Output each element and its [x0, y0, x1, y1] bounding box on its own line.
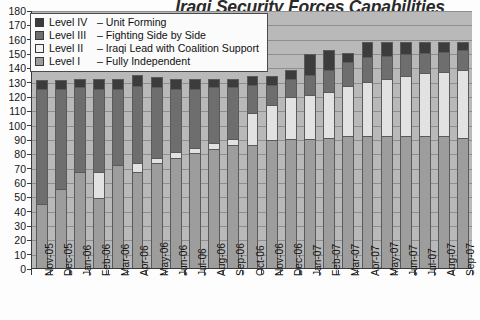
y-axis-tick-label: 10: [0, 250, 26, 260]
bar-segment-level-iv: [55, 80, 67, 89]
bar-segment-level-iv: [285, 70, 297, 79]
x-axis-tick-mark: [165, 270, 166, 275]
legend-label-level-2: Level II – Iraqi Lead with Coalition Sup…: [49, 43, 259, 54]
bar-segment-level-iii: [189, 89, 201, 148]
bar-segment-level-iii: [438, 52, 450, 72]
bar-segment-level-ii: [266, 105, 278, 141]
bar-segment-level-iv: [151, 77, 163, 87]
bar-segment-level-ii: [400, 76, 412, 136]
legend-swatch-level-1-icon: [35, 57, 44, 66]
y-axis-tick-label: 50: [0, 192, 26, 202]
bar-column: [381, 10, 393, 268]
legend-dash-1: –: [97, 55, 103, 67]
legend-desc-2: Iraqi Lead with Coalition Support: [106, 42, 259, 54]
bar-segment-level-iii: [227, 87, 239, 139]
chart-legend: Level IV– Unit Forming Level III– Fighti…: [30, 13, 268, 72]
legend-swatch-level-2-icon: [35, 44, 44, 53]
y-axis-tick-label: 160: [0, 35, 26, 45]
x-axis-tick-mark: [69, 270, 70, 275]
x-axis-tick-mark: [299, 270, 300, 275]
x-axis-tick-mark: [357, 270, 358, 275]
legend-desc-1: Fully Independent: [106, 55, 190, 67]
bar-segment-level-ii: [342, 86, 354, 136]
bar-column: [400, 10, 412, 268]
x-axis-tick-mark: [453, 270, 454, 275]
y-axis-tick-label: 80: [0, 149, 26, 159]
chart-screenshot: Iraqi Security Forces Capabilities 18017…: [0, 0, 480, 320]
bar-segment-level-iv: [323, 50, 335, 70]
bar-segment-level-iii: [112, 89, 124, 165]
bar-segment-level-ii: [208, 143, 220, 149]
bar-segment-level-iv: [36, 80, 48, 89]
bar-column: [438, 10, 450, 268]
bar-segment-level-iv: [189, 79, 201, 89]
x-axis-tick-mark: [127, 270, 128, 275]
x-axis-tick-mark: [434, 270, 435, 275]
bar-segment-level-ii: [419, 73, 431, 136]
bar-segment-level-ii: [132, 163, 144, 172]
bar-segment-level-iii: [266, 85, 278, 105]
bar-segment-level-iii: [93, 89, 105, 172]
y-axis-tick-label: 130: [0, 78, 26, 88]
legend-item-level-1: Level I – Fully Independent: [35, 55, 263, 68]
bar-segment-level-iii: [247, 85, 259, 114]
bar-segment-level-ii: [323, 92, 335, 138]
bar-segment-level-iv: [208, 79, 220, 88]
bar-segment-level-iv: [400, 42, 412, 55]
x-axis-tick-mark: [261, 270, 262, 275]
x-axis-tick-mark: [338, 270, 339, 275]
bar-segment-level-ii: [381, 79, 393, 136]
x-axis-tick-mark: [89, 270, 90, 275]
bar-segment-level-ii: [247, 113, 259, 145]
bar-segment-level-ii: [285, 97, 297, 139]
bar-segment-level-iv: [170, 79, 182, 89]
legend-item-level-3: Level III– Fighting Side by Side: [35, 29, 263, 42]
x-axis-tick-mark: [108, 270, 109, 275]
bar-segment-level-iii: [362, 57, 374, 81]
bar-column: [362, 10, 374, 268]
bar-column: [304, 10, 316, 268]
bar-segment-level-ii: [227, 139, 239, 145]
y-axis-tick-label: 30: [0, 221, 26, 231]
legend-swatch-level-4-icon: [35, 18, 44, 27]
legend-dash-4: –: [97, 16, 103, 28]
y-axis-tick-label: 180: [0, 6, 26, 16]
x-axis-tick-mark: [472, 270, 473, 275]
y-axis-tick-label: 70: [0, 164, 26, 174]
bar-segment-level-iii: [419, 53, 431, 73]
legend-label-level-1: Level I – Fully Independent: [49, 56, 190, 67]
bar-segment-level-iv: [362, 42, 374, 58]
x-axis-tick-mark: [204, 270, 205, 275]
bar-segment-level-ii: [93, 172, 105, 198]
legend-level-name-4: Level IV: [49, 17, 97, 28]
x-axis-tick-mark: [31, 270, 32, 275]
legend-dash-3: –: [97, 29, 103, 41]
y-axis-tick-label: 170: [0, 20, 26, 30]
bar-segment-level-iii: [36, 89, 48, 204]
legend-desc-4: Unit Forming: [106, 16, 167, 28]
bar-segment-level-iv: [112, 79, 124, 89]
y-axis-tick-label: 20: [0, 235, 26, 245]
y-axis-tick-label: 40: [0, 207, 26, 217]
bar-segment-level-ii: [151, 158, 163, 164]
bar-segment-level-ii: [189, 148, 201, 154]
bar-segment-level-iv: [74, 79, 86, 88]
x-axis-tick-mark: [223, 270, 224, 275]
bar-segment-level-iii: [285, 79, 297, 98]
bar-segment-level-iii: [342, 62, 354, 86]
y-axis-tick-label: 150: [0, 49, 26, 59]
legend-label-level-3: Level III– Fighting Side by Side: [49, 30, 206, 41]
bar-segment-level-iv: [342, 53, 354, 62]
bar-segment-level-iii: [170, 89, 182, 152]
bar-column: [342, 10, 354, 268]
bar-segment-level-ii: [304, 95, 316, 139]
y-axis-tick-label: 90: [0, 135, 26, 145]
x-axis-tick-mark: [395, 270, 396, 275]
bar-segment-level-iv: [266, 76, 278, 85]
bar-segment-level-iv: [93, 79, 105, 89]
bar-column: [323, 10, 335, 268]
bar-segment-level-iv: [132, 75, 144, 86]
y-axis-tick-label: 120: [0, 92, 26, 102]
bar-segment-level-iii: [151, 87, 163, 157]
legend-swatch-level-3-icon: [35, 31, 44, 40]
